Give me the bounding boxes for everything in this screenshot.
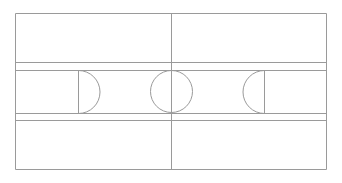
court-diagram: Court Diagram <box>0 0 342 183</box>
